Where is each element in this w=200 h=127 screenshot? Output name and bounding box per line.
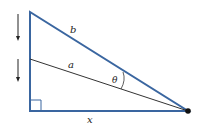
right-angle-marker (30, 100, 41, 111)
vertex-dot (185, 108, 191, 114)
label-a: a (68, 59, 74, 70)
triangle-diagram: b a θ x (0, 0, 200, 127)
label-b: b (70, 24, 76, 35)
down-arrow-icon (16, 14, 20, 41)
down-arrow-icon (16, 59, 20, 82)
angle-theta-arc (121, 72, 124, 89)
right-triangle (30, 12, 188, 111)
label-theta: θ (112, 75, 118, 85)
inner-segment-a (30, 59, 188, 111)
label-x: x (87, 114, 93, 125)
